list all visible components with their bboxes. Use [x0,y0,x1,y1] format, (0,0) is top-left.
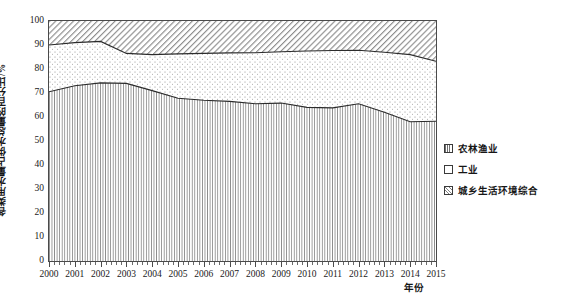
x-tick-minor-mark [395,262,396,265]
x-tick-minor-mark [364,262,365,265]
stacked-bands [49,21,436,261]
legend: 农林渔业 工业 城乡生活环境综合 [444,138,562,201]
x-tick-minor-mark [374,262,375,265]
x-tick-minor-mark [106,262,107,265]
x-tick-minor-mark [426,262,427,265]
plot-area [48,20,437,262]
x-tick-mark [204,262,205,267]
x-tick-minor-mark [421,262,422,265]
x-tick-minor-mark [173,262,174,265]
x-tick-mark [359,262,360,267]
x-tick-minor-mark [95,262,96,265]
x-tick-mark [101,262,102,267]
x-tick-minor-mark [317,262,318,265]
x-tick-minor-mark [219,262,220,265]
x-tick-mark [281,262,282,267]
x-tick-mark [49,262,50,267]
x-tick-minor-mark [415,262,416,265]
legend-item-agriculture[interactable]: 农林渔业 [444,138,562,159]
x-tick-minor-mark [286,262,287,265]
x-tick-minor-mark [343,262,344,265]
x-tick-minor-mark [147,262,148,265]
legend-label-industry: 工业 [458,165,478,175]
x-tick-mark [178,262,179,267]
x-tick-minor-mark [64,262,65,265]
x-axis-label: 年份 [404,283,424,293]
x-tick-minor-mark [390,262,391,265]
x-tick-minor-mark [240,262,241,265]
x-tick-minor-mark [183,262,184,265]
x-tick-minor-mark [54,262,55,265]
x-tick-minor-mark [132,262,133,265]
x-tick-minor-mark [199,262,200,265]
x-tick-minor-mark [224,262,225,265]
x-tick-minor-mark [276,262,277,265]
x-tick-minor-mark [338,262,339,265]
x-tick-minor-mark [261,262,262,265]
x-tick-minor-mark [302,262,303,265]
x-tick-minor-mark [59,262,60,265]
plot-svg [49,21,436,261]
x-tick-minor-mark [80,262,81,265]
x-tick-minor-mark [137,262,138,265]
x-tick-minor-mark [209,262,210,265]
x-tick-minor-mark [70,262,71,265]
x-tick-minor-mark [188,262,189,265]
x-tick-minor-mark [353,262,354,265]
x-tick-mark [230,262,231,267]
legend-label-agriculture: 农林渔业 [458,144,498,154]
legend-label-urban: 城乡生活环境综合 [458,186,538,196]
x-tick-minor-mark [157,262,158,265]
x-tick-minor-mark [312,262,313,265]
legend-swatch-industry-icon [444,165,453,174]
x-tick-minor-mark [431,262,432,265]
x-tick-mark [255,262,256,267]
x-tick-minor-mark [163,262,164,265]
x-tick-minor-mark [250,262,251,265]
legend-swatch-agriculture-icon [444,144,453,153]
x-tick-minor-mark [266,262,267,265]
x-tick-minor-mark [322,262,323,265]
x-tick-minor-mark [116,262,117,265]
x-tick-minor-mark [292,262,293,265]
x-tick-mark [152,262,153,267]
legend-item-urban[interactable]: 城乡生活环境综合 [444,180,562,201]
x-tick-mark [384,262,385,267]
x-tick-mark [307,262,308,267]
legend-item-industry[interactable]: 工业 [444,159,562,180]
x-tick-minor-mark [193,262,194,265]
x-tick-minor-mark [245,262,246,265]
x-tick-minor-mark [214,262,215,265]
legend-swatch-urban-icon [444,186,453,195]
x-tick-minor-mark [121,262,122,265]
x-tick-minor-mark [85,262,86,265]
x-tick-minor-mark [379,262,380,265]
x-tick-mark [436,262,437,267]
x-tick-mark [333,262,334,267]
x-tick-minor-mark [297,262,298,265]
x-tick-mark [126,262,127,267]
x-tick-minor-mark [369,262,370,265]
x-tick-minor-mark [405,262,406,265]
x-tick-minor-mark [348,262,349,265]
x-tick-minor-mark [328,262,329,265]
x-tick-minor-mark [400,262,401,265]
x-tick-mark [75,262,76,267]
x-tick-label: 2015 [416,269,456,279]
x-tick-minor-mark [142,262,143,265]
x-tick-mark [410,262,411,267]
chart-root: 各类用水量占供水总量的百分比/% 0102030405060708090100 … [0,0,563,301]
x-tick-minor-mark [111,262,112,265]
x-tick-minor-mark [90,262,91,265]
x-tick-minor-mark [235,262,236,265]
x-tick-minor-mark [168,262,169,265]
x-tick-minor-mark [271,262,272,265]
